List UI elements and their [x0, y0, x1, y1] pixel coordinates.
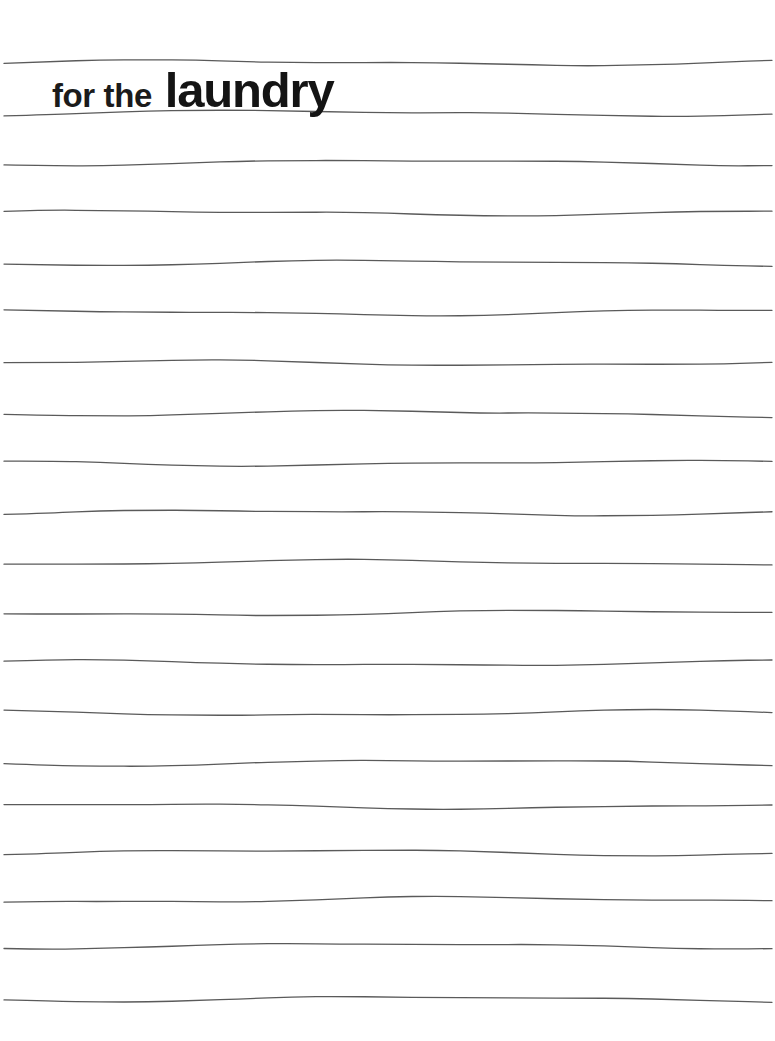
writing-line	[4, 460, 772, 466]
writing-line	[4, 161, 772, 166]
writing-line	[4, 310, 772, 316]
writing-line	[4, 850, 772, 856]
writing-line	[4, 210, 772, 216]
page-title-lead: for the	[52, 79, 152, 112]
notepad-page: for thelaundry	[0, 0, 775, 1041]
writing-line	[4, 610, 772, 615]
writing-line	[4, 896, 772, 902]
writing-line	[4, 260, 772, 266]
writing-line	[4, 60, 772, 66]
writing-line	[4, 410, 772, 417]
page-title: for thelaundry	[52, 66, 333, 110]
writing-line	[4, 710, 772, 716]
writing-line	[4, 944, 772, 949]
writing-lines-layer	[0, 0, 775, 1041]
page-title-emphasis: laundry	[165, 66, 334, 115]
writing-line	[4, 760, 772, 766]
writing-line	[4, 360, 772, 365]
writing-line	[4, 559, 772, 565]
writing-line	[4, 804, 772, 809]
writing-line	[4, 510, 772, 516]
writing-line	[4, 660, 772, 666]
writing-line	[4, 997, 772, 1003]
